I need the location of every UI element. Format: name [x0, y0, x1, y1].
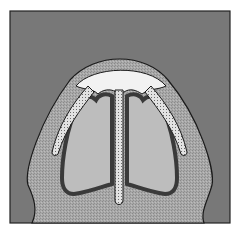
central-septum-strip: [115, 90, 123, 205]
anatomical-diagram: [0, 0, 239, 239]
